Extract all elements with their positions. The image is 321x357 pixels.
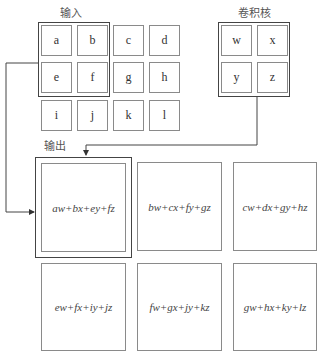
input-cell-e: e — [41, 62, 72, 93]
input-cell-a: a — [41, 25, 72, 56]
input-cell-d: d — [149, 25, 180, 56]
input-cell-k: k — [113, 100, 144, 131]
input-cell-h: h — [149, 62, 180, 93]
input-cell-b: b — [77, 25, 108, 56]
output-cell-0-2: cw+dx+gy+hz — [233, 162, 317, 251]
kernel-cell-w: w — [221, 25, 252, 56]
kernel-cell-y: y — [221, 62, 252, 93]
input-cell-j: j — [77, 100, 108, 131]
output-cell-1-1: fw+gx+jy+kz — [137, 263, 222, 351]
input-cell-g: g — [113, 62, 144, 93]
kernel-cell-z: z — [257, 62, 288, 93]
input-cell-l: l — [149, 100, 180, 131]
output-cell-0-0: aw+bx+ey+fz — [41, 163, 126, 252]
output-title: 输出 — [44, 137, 66, 153]
input-cell-f: f — [77, 62, 108, 93]
input-title: 输入 — [60, 4, 82, 20]
output-cell-1-2: gw+hx+ky+lz — [233, 263, 317, 351]
input-cell-i: i — [41, 100, 72, 131]
kernel-title: 卷积核 — [238, 4, 271, 20]
output-cell-0-1: bw+cx+fy+gz — [137, 162, 222, 251]
kernel-cell-x: x — [257, 25, 288, 56]
input-cell-c: c — [113, 25, 144, 56]
output-cell-1-0: ew+fx+iy+jz — [41, 263, 126, 351]
